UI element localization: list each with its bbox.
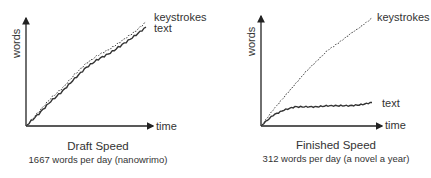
series-label-keystrokes: keystrokes — [377, 11, 430, 23]
chart-caption: Draft Speed 1667 words per day (nanowrim… — [28, 139, 168, 166]
series-text-line — [262, 103, 372, 126]
series-text-line — [27, 27, 146, 125]
chart-subtitle: 1667 words per day (nanowrimo) — [28, 153, 168, 166]
x-axis-label: time — [156, 120, 177, 132]
series-label-text: text — [382, 97, 400, 109]
y-axis-label: words — [245, 27, 257, 56]
chart-draft-speed: words time keystrokes text Draft Speed 1… — [0, 0, 215, 178]
chart-title: Finished Speed — [261, 138, 411, 152]
x-axis-label: time — [385, 119, 406, 131]
chart-finished-speed: words time keystrokes text Finished Spee… — [215, 0, 431, 178]
series-keystrokes-line — [262, 18, 372, 125]
chart-caption: Finished Speed 312 words per day (a nove… — [261, 138, 411, 165]
y-axis-label: words — [10, 29, 22, 58]
series-label-text: text — [154, 22, 172, 34]
series-keystrokes-line — [27, 22, 146, 125]
chart-subtitle: 312 words per day (a novel a year) — [261, 152, 411, 165]
chart-title: Draft Speed — [28, 139, 168, 153]
